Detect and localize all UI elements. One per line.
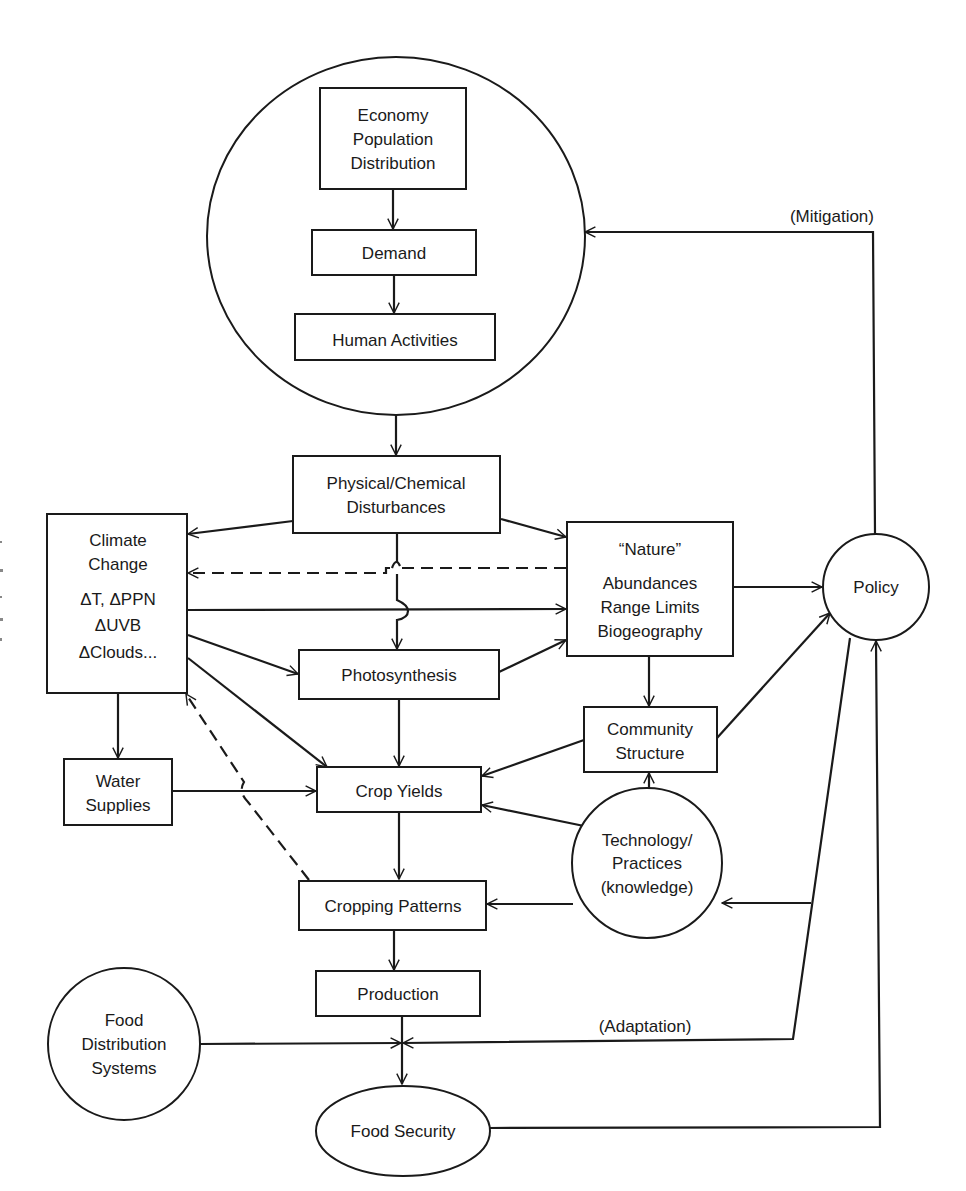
climate-line-2: Change	[88, 555, 148, 574]
nature-line-2: Abundances	[603, 574, 698, 593]
water-line-2: Supplies	[85, 796, 150, 815]
economy-line-2: Population	[353, 130, 433, 149]
technology-line-1: Technology/	[602, 831, 693, 850]
crop-yields-label: Crop Yields	[356, 782, 443, 801]
edge-community-crop-yields	[482, 740, 584, 776]
edge-climate-nature	[188, 609, 566, 610]
edge-disturbances-photosynthesis	[397, 533, 408, 649]
climate-line-1: Climate	[89, 531, 147, 550]
disturbances-line-1: Physical/Chemical	[327, 474, 466, 493]
community-line-1: Community	[607, 720, 693, 739]
policy-label: Policy	[853, 578, 899, 597]
node-community-structure: Community Structure	[584, 707, 717, 772]
food-distribution-line-3: Systems	[91, 1059, 156, 1078]
node-human-activities: Human Activities	[295, 314, 495, 360]
community-line-2: Structure	[616, 744, 685, 763]
node-food-security: Food Security	[316, 1086, 490, 1176]
node-nature: “Nature” Abundances Range Limits Biogeog…	[567, 522, 733, 656]
climate-line-5: ΔClouds...	[79, 643, 157, 662]
nature-line-1: “Nature”	[619, 540, 682, 559]
climate-line-4: ΔUVB	[95, 616, 141, 635]
node-economy: Economy Population Distribution	[320, 88, 466, 189]
edge-food-distribution-junction	[200, 1043, 401, 1044]
edge-disturbances-nature	[501, 519, 566, 537]
nature-line-3: Range Limits	[600, 598, 699, 617]
node-policy: Policy	[823, 534, 929, 640]
edge-cropping-climate-dashed	[186, 694, 309, 880]
food-distribution-line-2: Distribution	[81, 1035, 166, 1054]
edge-nature-climate-dashed	[188, 568, 566, 573]
food-security-label: Food Security	[351, 1122, 456, 1141]
edge-disturbances-climate	[188, 521, 293, 534]
food-distribution-line-1: Food	[105, 1011, 144, 1030]
edge-photosynthesis-nature	[499, 640, 566, 672]
edge-climate-photosynthesis	[188, 635, 298, 674]
node-water-supplies: Water Supplies	[64, 759, 172, 825]
node-technology: Technology/ Practices (knowledge)	[572, 788, 722, 938]
human-activities-label: Human Activities	[332, 331, 458, 350]
production-label: Production	[357, 985, 438, 1004]
node-crop-yields: Crop Yields	[317, 767, 481, 812]
node-food-distribution: Food Distribution Systems	[48, 968, 200, 1120]
edge-technology-crop-yields	[482, 805, 584, 826]
photosynthesis-label: Photosynthesis	[341, 666, 456, 685]
nature-line-4: Biogeography	[598, 622, 703, 641]
adaptation-label: (Adaptation)	[599, 1017, 692, 1036]
node-demand: Demand	[312, 230, 476, 275]
margin-fragments	[0, 541, 3, 641]
economy-line-3: Distribution	[350, 154, 435, 173]
water-line-1: Water	[96, 772, 141, 791]
mitigation-label: (Mitigation)	[790, 207, 874, 226]
edge-policy-mitigation	[585, 232, 875, 534]
node-production: Production	[316, 971, 480, 1016]
climate-line-3: ΔT, ΔPPN	[80, 590, 156, 609]
food-security-diagram: Economy Population Distribution Demand H…	[0, 0, 966, 1191]
node-cropping-patterns: Cropping Patterns	[299, 881, 486, 930]
disturbances-line-2: Disturbances	[346, 498, 445, 517]
technology-line-3: (knowledge)	[601, 878, 694, 897]
demand-label: Demand	[362, 244, 426, 263]
economy-line-1: Economy	[358, 106, 429, 125]
technology-line-2: Practices	[612, 854, 682, 873]
cropping-patterns-label: Cropping Patterns	[324, 897, 461, 916]
node-disturbances: Physical/Chemical Disturbances	[293, 456, 500, 533]
node-climate-change: Climate Change ΔT, ΔPPN ΔUVB ΔClouds...	[47, 514, 187, 693]
node-photosynthesis: Photosynthesis	[299, 650, 499, 699]
